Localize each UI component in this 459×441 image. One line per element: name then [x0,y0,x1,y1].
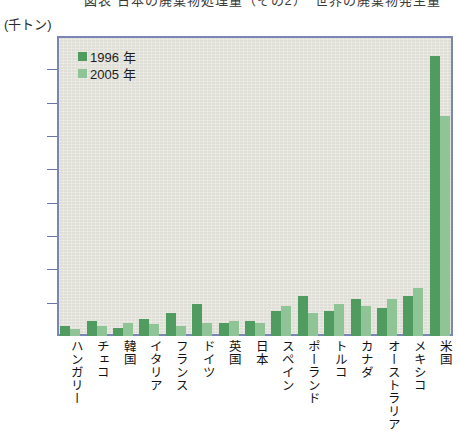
chart-title-text: 図表 日本の廃棄物処理量（その2） 世界の廃棄物発生量 [84,0,441,9]
y-axis-tick-mark [47,69,57,70]
x-axis-labels: ハンガリーチェコ韓国イタリアフランスドイツ英国日本スペインポーランドトルコカナダ… [57,340,453,441]
x-axis-label: 韓国 [112,340,134,366]
chart-legend: 1996 年 2005 年 [78,48,136,82]
legend-swatch-1996-icon [78,52,87,61]
x-axis-label: 米国 [429,340,451,366]
x-axis-label: オーストラリア [376,340,398,431]
x-axis-label: 英国 [218,340,240,366]
x-axis-label: 日本 [244,340,266,366]
x-axis-label: チェコ [86,340,108,379]
y-axis-tick-mark [47,103,57,104]
legend-label-2005: 2005 年 [90,64,136,83]
x-axis-label: ドイツ [191,340,213,379]
x-axis-label: ポーランド [297,340,319,405]
y-axis-tick-mark [47,269,57,270]
x-axis-label: ハンガリー [59,340,81,405]
y-axis-unit-label: (千トン) [4,14,52,33]
y-axis-tick-mark [47,303,57,304]
chart-title-strip: 図表 日本の廃棄物処理量（その2） 世界の廃棄物発生量 [0,0,459,12]
x-axis-label: スペイン [270,340,292,392]
x-axis-label: カナダ [350,340,372,379]
legend-item-1996: 1996 年 [78,48,136,65]
y-axis-tick-mark [47,236,57,237]
y-axis-tick-mark [47,203,57,204]
legend-item-2005: 2005 年 [78,65,136,82]
x-axis-label: トルコ [323,340,345,379]
x-axis-label: メキシコ [402,340,424,392]
y-axis-tick-mark [47,169,57,170]
x-axis-label: イタリア [138,340,160,392]
legend-swatch-2005-icon [78,69,87,78]
y-axis-tick-mark [47,136,57,137]
x-axis-label: フランス [165,340,187,392]
